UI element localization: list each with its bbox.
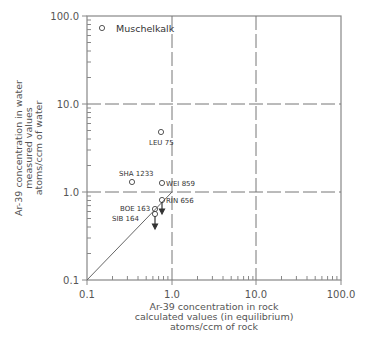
label-wei-859: WEI 859 [166, 180, 195, 188]
x-axis-title-line-3: atoms/ccm of rock [170, 321, 258, 332]
y-axis-title-line-3: atoms/ccm of water [33, 101, 44, 196]
x-tick-0-1: 0.1 [79, 289, 95, 300]
point-wei-859 [159, 180, 164, 185]
x-tick-10: 10.0 [245, 289, 267, 300]
arrow-down-icon [160, 209, 165, 214]
y-axis-title: Ar-39 concentration in water measured va… [13, 80, 44, 216]
chart-canvas: 100.0 10.0 1.0 0.1 0.1 1.0 10.0 100.0 Ar… [0, 0, 367, 338]
arrow-down-icon [153, 224, 158, 229]
legend-label: Muschelkalk [116, 23, 175, 34]
label-rin-656: RIN 656 [166, 197, 194, 205]
y-tick-10: 10.0 [57, 99, 79, 110]
point-leu-75 [158, 129, 163, 134]
label-sib-164: SIB 164 [112, 215, 139, 223]
point-sib-164 [152, 211, 157, 216]
label-boe-163: BOE 163 [120, 205, 150, 213]
label-sha-1233: SHA 1233 [119, 170, 154, 178]
x-tick-100: 100.0 [327, 289, 356, 300]
y-tick-0-1: 0.1 [63, 275, 79, 286]
x-tick-1: 1.0 [164, 289, 180, 300]
legend-circle-icon [99, 25, 104, 30]
y-tick-100: 100.0 [50, 11, 79, 22]
point-sha-1233 [129, 179, 134, 184]
label-leu-75: LEU 75 [149, 139, 174, 147]
y-tick-1: 1.0 [63, 187, 79, 198]
